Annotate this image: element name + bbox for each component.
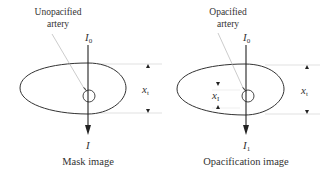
opacified-artery-icon <box>242 90 254 102</box>
artery-leader-line <box>52 34 85 90</box>
diagram-canvas: Unopacified artery I0 I xt Mask image Op <box>0 0 332 176</box>
thickness-arrow-down-icon <box>146 109 150 113</box>
artery-leader-line <box>218 33 244 90</box>
beam-arrow-icon <box>85 125 91 135</box>
artery-label-line1: Opacified <box>209 7 247 17</box>
artery-label-line2: artery <box>47 19 69 29</box>
iodine-arrow-down-icon <box>216 82 220 86</box>
body-cross-section <box>20 63 126 114</box>
beam-arrow-icon <box>243 125 249 135</box>
thickness-arrow-up-icon <box>146 64 150 68</box>
transmitted-intensity-label: I1 <box>242 139 251 153</box>
artery-label-line1: Unopacified <box>35 7 82 17</box>
mask-image-caption: Mask image <box>62 156 114 167</box>
thickness-label: xt <box>141 83 149 97</box>
thickness-arrow-up-icon <box>305 65 309 69</box>
artery-label-line2: artery <box>217 19 239 29</box>
unopacified-artery-icon <box>83 90 95 102</box>
mask-image-panel: Unopacified artery I0 I xt Mask image <box>20 7 162 167</box>
thickness-arrow-down-icon <box>305 110 309 114</box>
incident-intensity-label: I0 <box>242 31 251 45</box>
thickness-label: xt <box>300 84 308 98</box>
transmitted-intensity-label: I <box>85 139 91 151</box>
opacification-image-panel: Opacified artery I0 I1 xt xI Opacificati… <box>177 7 320 167</box>
iodine-path-label: xI <box>211 89 220 103</box>
incident-intensity-label: I0 <box>84 31 93 45</box>
opacification-image-caption: Opacification image <box>203 156 289 167</box>
iodine-arrow-up-icon <box>216 105 220 109</box>
body-cross-section <box>177 64 284 115</box>
